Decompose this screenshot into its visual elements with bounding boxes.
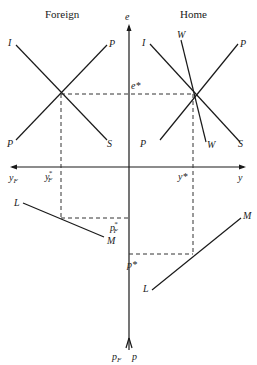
horizontal-axis-right-arrow-icon (239, 165, 246, 170)
horizontal-axis-left-arrow-icon (10, 165, 17, 170)
home-label-P-upper: P (239, 38, 246, 49)
e-star-label: e* (131, 80, 140, 91)
home-label-S: S (238, 138, 243, 149)
home-label-M: M (242, 210, 252, 221)
foreign-label-I: I (7, 37, 12, 48)
foreign-label-S: S (107, 138, 112, 149)
home-label-W-upper: W (177, 29, 187, 40)
yf-star-label: y*F (44, 169, 53, 184)
y-axis-label: y (237, 172, 243, 183)
foreign-panel-title: Foreign (45, 8, 80, 20)
vertical-axis-label-e: e (125, 11, 130, 22)
vertical-axis-up-arrow-icon (127, 24, 132, 31)
home-ww-curve (181, 40, 206, 142)
yf-axis-label: yF (8, 172, 18, 185)
foreign-label-P-lower: P (6, 138, 13, 149)
p-star-label: p* (126, 259, 137, 270)
y-star-label: y* (177, 171, 187, 182)
pf-axis-label: pF (111, 351, 122, 364)
economic-diagram-canvas: Foreign Home e pF p yF y I P P S I W P P… (0, 0, 257, 365)
p-axis-label: p (131, 351, 137, 362)
pf-star-label: p*F (109, 220, 119, 235)
foreign-label-L: L (13, 197, 20, 208)
home-panel-title: Home (180, 8, 207, 20)
home-label-I: I (141, 37, 146, 48)
home-pp-curve (160, 44, 238, 140)
foreign-label-P-upper: P (108, 38, 115, 49)
diagram: Foreign Home e pF p yF y I P P S I W P P… (0, 0, 257, 365)
home-label-L: L (142, 283, 149, 294)
foreign-lm-curve (23, 203, 104, 237)
home-label-P-lower: P (139, 138, 146, 149)
foreign-label-M: M (106, 235, 116, 246)
home-label-W-lower: W (207, 139, 217, 150)
